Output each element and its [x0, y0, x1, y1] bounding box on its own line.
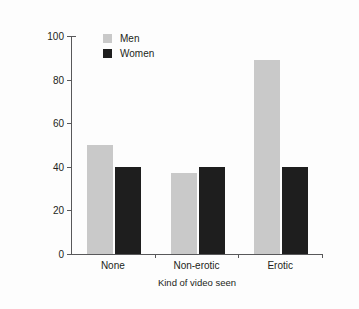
bar-chart-figure: Percentage helping 020406080100 NoneNon-…	[0, 0, 359, 309]
y-tick-label: 80	[53, 74, 64, 85]
x-tick-mark	[155, 254, 156, 258]
y-tick-mark	[67, 123, 71, 124]
bar-none-women	[115, 167, 141, 254]
x-tick-label-non-erotic: Non-erotic	[173, 260, 219, 271]
x-tick-mark	[238, 254, 239, 258]
x-tick-label-none: None	[101, 260, 125, 271]
bar-series-group	[72, 36, 323, 254]
y-tick-mark	[67, 254, 71, 255]
x-tick-mark-end	[322, 254, 323, 258]
y-tick-label: 20	[53, 205, 64, 216]
bar-non-erotic-women	[199, 167, 225, 254]
y-tick-mark	[67, 36, 71, 37]
bar-erotic-men	[254, 60, 280, 254]
x-axis-title: Kind of video seen	[71, 277, 323, 288]
bar-none-men	[87, 145, 113, 254]
legend-swatch-women	[103, 49, 112, 58]
y-tick-label: 0	[58, 249, 64, 260]
bar-non-erotic-men	[171, 173, 197, 254]
y-tick: 0	[71, 254, 72, 255]
legend: MenWomen	[103, 31, 154, 61]
y-tick-label: 40	[53, 161, 64, 172]
y-tick-mark	[67, 167, 71, 168]
y-tick-label: 60	[53, 118, 64, 129]
x-tick-label-erotic: Erotic	[267, 260, 293, 271]
legend-item-women: Women	[103, 46, 154, 61]
legend-label-women: Women	[120, 48, 154, 59]
legend-label-men: Men	[120, 33, 139, 44]
x-axis-line	[71, 254, 323, 255]
legend-swatch-men	[103, 34, 112, 43]
y-tick-label: 100	[47, 31, 64, 42]
legend-item-men: Men	[103, 31, 154, 46]
plot-area: 020406080100 NoneNon-eroticErotic	[71, 36, 323, 254]
y-tick-mark	[67, 210, 71, 211]
bar-erotic-women	[282, 167, 308, 254]
y-tick-mark	[67, 80, 71, 81]
